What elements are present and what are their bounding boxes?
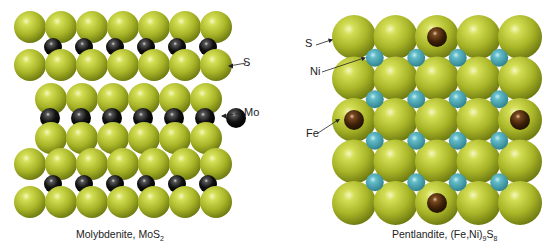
s-atom — [200, 49, 232, 81]
fe-atom — [427, 193, 447, 213]
label-s-pentlandite: S — [305, 37, 312, 49]
s-atom — [200, 148, 232, 180]
label-s-molybdenite: S — [243, 56, 250, 68]
ni-atom — [407, 90, 425, 108]
s-atom — [200, 186, 232, 218]
s-atom — [14, 148, 46, 180]
s-atom — [169, 49, 201, 81]
s-atom — [45, 49, 77, 81]
s-atom — [107, 11, 139, 43]
s-atom — [76, 186, 108, 218]
ni-atom — [449, 49, 467, 67]
ni-atom — [366, 132, 384, 150]
s-atom — [200, 11, 232, 43]
s-atom — [138, 186, 170, 218]
molybdenite-structure — [14, 11, 246, 218]
fe-atom — [427, 27, 447, 47]
caption-pentlandite-text: Pentlandite, (Fe,Ni) — [392, 228, 482, 240]
fe-atom — [510, 110, 530, 130]
s-atom — [107, 148, 139, 180]
ni-atom — [490, 90, 508, 108]
s-atom — [76, 49, 108, 81]
fe-atom — [344, 110, 364, 130]
ni-atom — [407, 49, 425, 67]
pentlandite-structure — [332, 15, 542, 225]
s-atom — [45, 148, 77, 180]
label-mo: Mo — [244, 106, 259, 118]
ni-atom — [366, 90, 384, 108]
s-atom — [76, 11, 108, 43]
caption-molybdenite-subscript: 2 — [160, 235, 164, 242]
s-atom — [138, 148, 170, 180]
s-atom — [169, 11, 201, 43]
s-atom — [45, 11, 77, 43]
ni-atom — [407, 173, 425, 191]
s-atom — [14, 186, 46, 218]
ni-atom — [490, 173, 508, 191]
s-atom — [14, 11, 46, 43]
s-atom — [107, 49, 139, 81]
s-atom — [138, 11, 170, 43]
ni-atom — [449, 90, 467, 108]
ni-atom — [490, 132, 508, 150]
s-atom — [107, 186, 139, 218]
mo-atom — [226, 108, 246, 128]
s-atom — [76, 148, 108, 180]
caption-molybdenite-text: Molybdenite, MoS — [76, 228, 160, 240]
ni-atom — [490, 49, 508, 67]
label-fe: Fe — [306, 127, 319, 139]
s-atom — [14, 49, 46, 81]
s-atom — [169, 148, 201, 180]
crystal-structures-svg — [0, 0, 544, 250]
label-ni: Ni — [310, 65, 320, 77]
s-atom — [169, 186, 201, 218]
caption-pentlandite-subscript-2: 8 — [493, 235, 497, 242]
ni-atom — [407, 132, 425, 150]
ni-atom — [449, 132, 467, 150]
caption-molybdenite: Molybdenite, MoS2 — [76, 228, 164, 242]
ni-atom — [366, 49, 384, 67]
ni-atom — [366, 173, 384, 191]
s-atom — [138, 49, 170, 81]
caption-pentlandite: Pentlandite, (Fe,Ni)9S8 — [392, 228, 497, 242]
s-atom — [45, 186, 77, 218]
ni-atom — [449, 173, 467, 191]
